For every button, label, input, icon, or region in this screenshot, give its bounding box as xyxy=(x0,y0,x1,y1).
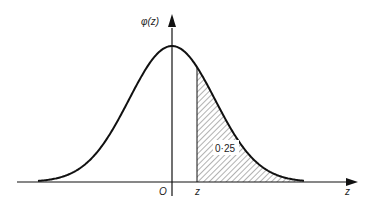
density-curve xyxy=(38,46,304,181)
x-axis-arrow-icon xyxy=(346,178,358,186)
z-marker-label: z xyxy=(194,186,200,197)
y-axis-arrow-icon xyxy=(168,14,176,27)
shaded-tail-region xyxy=(197,67,304,182)
normal-distribution-figure: 0·25 φ(z) O z z xyxy=(0,0,367,218)
x-axis xyxy=(17,178,358,186)
origin-label: O xyxy=(159,186,167,197)
y-axis-label: φ(z) xyxy=(141,16,159,27)
y-axis xyxy=(168,14,176,196)
x-axis-label: z xyxy=(344,186,350,197)
area-label: 0·25 xyxy=(215,143,235,154)
